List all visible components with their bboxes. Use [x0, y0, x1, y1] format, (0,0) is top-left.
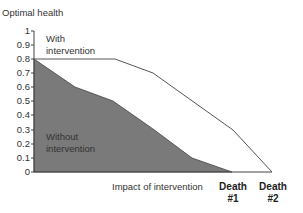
svg-text:0.3: 0.3	[17, 124, 30, 135]
svg-text:0.1: 0.1	[17, 152, 30, 163]
svg-text:0.8: 0.8	[17, 53, 30, 64]
svg-text:0.7: 0.7	[17, 67, 30, 78]
svg-text:#1: #1	[227, 193, 239, 204]
without-intervention-label-line2: intervention	[46, 143, 95, 154]
y-axis-label: Optimal health	[2, 7, 63, 18]
chart: Optimal health 0 0.1 0.2 0.3 0.4 0.5 0.6…	[0, 0, 303, 213]
svg-text:#2: #2	[267, 193, 279, 204]
svg-text:Death: Death	[259, 181, 287, 192]
svg-text:0.9: 0.9	[17, 39, 30, 50]
death-1-marker: Death #1	[219, 181, 247, 204]
svg-text:0: 0	[25, 166, 30, 177]
svg-text:0.2: 0.2	[17, 138, 30, 149]
svg-text:0.5: 0.5	[17, 95, 30, 106]
y-tick-labels: 0 0.1 0.2 0.3 0.4 0.5 0.6 0.7 0.8 0.9 1	[17, 25, 30, 177]
svg-text:0.6: 0.6	[17, 81, 30, 92]
death-2-marker: Death #2	[259, 181, 287, 204]
with-intervention-label-line2: intervention	[46, 45, 95, 56]
without-intervention-area	[34, 59, 232, 172]
svg-text:0.4: 0.4	[17, 109, 30, 120]
svg-text:1: 1	[25, 25, 30, 36]
x-axis-label: Impact of intervention	[112, 181, 203, 192]
without-intervention-label-line1: Without	[46, 131, 79, 142]
with-intervention-label-line1: With	[46, 33, 65, 44]
svg-text:Death: Death	[219, 181, 247, 192]
